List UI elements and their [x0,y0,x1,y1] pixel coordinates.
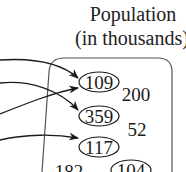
value-109-circled: 109 [79,72,119,93]
value-359-circled: 359 [79,106,119,127]
value-109-label: 109 [85,72,114,93]
arrow-to-359 [0,82,78,110]
value-182-label: 182 [55,161,84,172]
arrow-to-117 [0,135,78,140]
diagram-canvas: 109 200 359 52 117 182 104 [0,0,186,172]
value-104-circled: 104 [111,160,151,172]
value-117-label: 117 [85,137,113,158]
arrow-to-109-b [0,88,78,114]
arrow-to-109-a [0,60,78,78]
value-359-label: 359 [85,106,114,127]
value-104-label: 104 [117,160,146,172]
value-200-label: 200 [122,84,151,105]
value-52-label: 52 [128,119,147,140]
value-117-circled: 117 [79,137,119,158]
mapping-diagram: Population (in thousands) 109 200 359 52 [0,0,186,172]
